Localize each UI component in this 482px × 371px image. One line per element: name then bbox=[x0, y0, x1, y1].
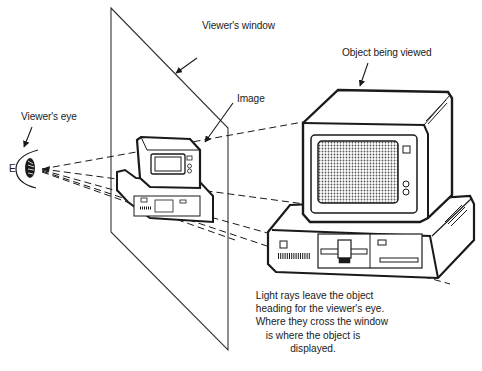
projected-image-computer bbox=[117, 137, 213, 222]
caption-line: Light rays leave the object bbox=[256, 289, 370, 302]
caption-line: Where they cross the window bbox=[256, 315, 370, 328]
caption-line: heading for the viewer's eye. bbox=[256, 302, 370, 315]
eye-icon bbox=[16, 150, 38, 188]
label-viewers-eye: Viewer's eye bbox=[21, 110, 77, 122]
label-image: Image bbox=[237, 92, 265, 104]
diagram-caption: Light rays leave the object heading for … bbox=[256, 289, 370, 355]
caption-line: displayed. bbox=[256, 342, 370, 355]
diagram-canvas: Viewer's window Object being viewed Imag… bbox=[0, 0, 482, 371]
label-viewers-window: Viewer's window bbox=[202, 19, 275, 31]
object-computer bbox=[268, 90, 474, 278]
caption-line: is where the object is bbox=[256, 329, 370, 342]
label-object-being-viewed: Object being viewed bbox=[342, 46, 431, 58]
label-eye-marker: E bbox=[9, 162, 16, 174]
